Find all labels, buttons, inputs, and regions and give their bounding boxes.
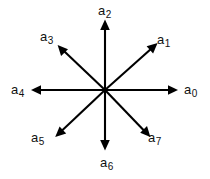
vector-label-a3: a3 [40,30,53,46]
vector-label-a7-subscript: 7 [155,136,161,147]
arrow-a0-head [168,85,178,95]
arrow-a2 [100,20,110,91]
arrow-a5 [55,90,105,137]
vector-label-a3-subscript: 3 [47,35,53,46]
vector-canvas [0,0,210,179]
vector-label-a6-subscript: 6 [107,161,113,172]
arrow-a3 [58,45,105,90]
vector-label-a6: a6 [100,156,113,172]
vector-label-a5-subscript: 5 [38,136,44,147]
vector-label-a1: a1 [157,33,170,49]
vector-label-a7: a7 [148,131,161,147]
arrow-a5-shaft [60,90,105,132]
vector-label-a5: a5 [31,131,44,147]
arrow-a4-head [31,85,41,95]
vector-label-a0: a0 [184,83,197,99]
arrow-a2-head [100,20,110,31]
arrow-a1 [105,43,158,90]
vector-label-a4-subscript: 4 [18,88,24,99]
arrow-a7-shaft [105,90,145,132]
arrow-a6 [100,90,110,151]
vector-label-a0-subscript: 0 [191,88,197,99]
arrow-a3-shaft [63,50,105,90]
arrow-a0 [105,85,178,95]
arrow-a7 [105,90,150,137]
vector-label-a2-subscript: 2 [105,9,111,20]
arrow-a6-head [100,140,110,151]
vector-diagram: a0 a1 a2 a3 a4 a5 a6 a7 [0,0,210,179]
arrow-a1-shaft [105,48,153,91]
vector-label-a1-subscript: 1 [164,38,170,49]
vector-label-a2: a2 [98,4,111,20]
arrow-a4 [31,85,105,95]
vector-label-a4: a4 [11,83,24,99]
